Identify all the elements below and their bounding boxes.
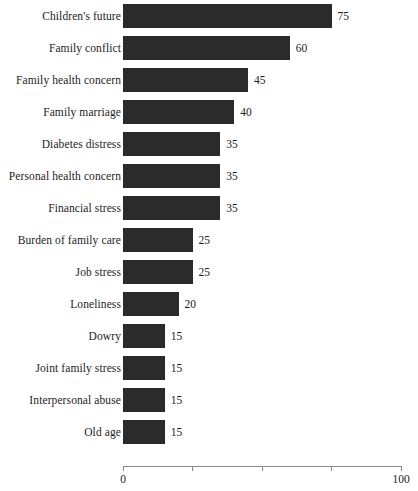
bar — [123, 100, 234, 124]
category-label: Personal health concern — [9, 160, 121, 192]
x-axis: 0100 — [123, 466, 401, 491]
bar — [123, 228, 193, 252]
category-label: Family conflict — [49, 32, 121, 64]
bar — [123, 68, 248, 92]
x-axis-tick-label: 100 — [392, 473, 409, 485]
bar-track: 35 — [123, 164, 401, 188]
bar-row: Family marriage40 — [0, 96, 418, 128]
bar-value-label: 60 — [290, 36, 308, 60]
bar-value-label: 35 — [220, 164, 238, 188]
bar-value-label: 75 — [332, 4, 350, 28]
bar-value-label: 15 — [165, 420, 183, 444]
bar-track: 15 — [123, 356, 401, 380]
bar-track: 15 — [123, 324, 401, 348]
bar-row: Diabetes distress35 — [0, 128, 418, 160]
bar — [123, 260, 193, 284]
bar-track: 15 — [123, 420, 401, 444]
bar-row: Family conflict60 — [0, 32, 418, 64]
category-label: Family health concern — [16, 64, 121, 96]
bar — [123, 292, 179, 316]
bar-row: Interpersonal abuse15 — [0, 384, 418, 416]
bar-value-label: 40 — [234, 100, 252, 124]
category-label: Interpersonal abuse — [29, 384, 121, 416]
bar-value-label: 20 — [179, 292, 197, 316]
bar — [123, 164, 220, 188]
bar-row: Job stress25 — [0, 256, 418, 288]
bar-track: 75 — [123, 4, 401, 28]
category-label: Job stress — [76, 256, 121, 288]
category-label: Diabetes distress — [42, 128, 121, 160]
category-label: Burden of family care — [18, 224, 121, 256]
bar — [123, 388, 165, 412]
category-label: Loneliness — [70, 288, 121, 320]
category-label: Dowry — [89, 320, 121, 352]
bar-track: 15 — [123, 388, 401, 412]
chart-plot-area: Children's future75Family conflict60Fami… — [0, 0, 418, 448]
bar — [123, 4, 332, 28]
category-label: Children's future — [42, 0, 121, 32]
bar-track: 40 — [123, 100, 401, 124]
bar — [123, 196, 220, 220]
bar-value-label: 15 — [165, 388, 183, 412]
category-label: Financial stress — [48, 192, 121, 224]
category-label: Joint family stress — [35, 352, 121, 384]
bar-track: 60 — [123, 36, 401, 60]
x-axis-tick — [123, 466, 124, 471]
x-axis-tick — [192, 466, 193, 471]
bar-value-label: 25 — [193, 260, 211, 284]
x-axis-tick — [331, 466, 332, 471]
bar-row: Joint family stress15 — [0, 352, 418, 384]
bar-row: Old age15 — [0, 416, 418, 448]
bar-track: 35 — [123, 196, 401, 220]
bar-row: Family health concern45 — [0, 64, 418, 96]
bar-row: Loneliness20 — [0, 288, 418, 320]
x-axis-tick — [262, 466, 263, 471]
bar-row: Personal health concern35 — [0, 160, 418, 192]
bar-value-label: 35 — [220, 196, 238, 220]
bar-track: 20 — [123, 292, 401, 316]
bar — [123, 420, 165, 444]
bar — [123, 324, 165, 348]
bar-chart: Children's future75Family conflict60Fami… — [0, 0, 418, 491]
x-axis-tick-label: 0 — [120, 473, 126, 485]
bar-row: Burden of family care25 — [0, 224, 418, 256]
bar-track: 25 — [123, 228, 401, 252]
bar-value-label: 45 — [248, 68, 266, 92]
category-label: Family marriage — [43, 96, 121, 128]
bar-track: 35 — [123, 132, 401, 156]
bar-value-label: 25 — [193, 228, 211, 252]
bar-row: Dowry15 — [0, 320, 418, 352]
bar-value-label: 15 — [165, 324, 183, 348]
bar — [123, 356, 165, 380]
bar-value-label: 35 — [220, 132, 238, 156]
category-label: Old age — [84, 416, 121, 448]
bar-row: Children's future75 — [0, 0, 418, 32]
bar-track: 45 — [123, 68, 401, 92]
bar — [123, 36, 290, 60]
bar-row: Financial stress35 — [0, 192, 418, 224]
bar-value-label: 15 — [165, 356, 183, 380]
bar-track: 25 — [123, 260, 401, 284]
x-axis-tick — [401, 466, 402, 471]
bar — [123, 132, 220, 156]
